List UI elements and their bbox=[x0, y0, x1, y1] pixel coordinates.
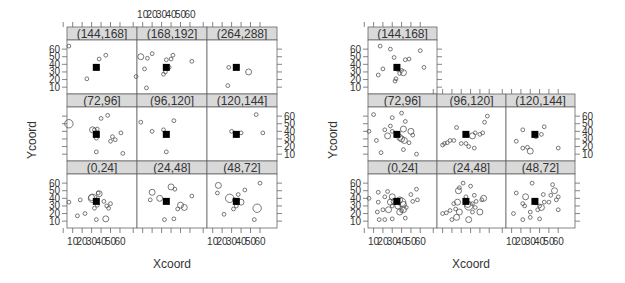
panel-frame bbox=[506, 174, 575, 228]
y-axis-title: Ycoord bbox=[326, 121, 340, 159]
panel-strip-label: (144,168] bbox=[77, 27, 128, 41]
reference-square-marker bbox=[93, 64, 100, 71]
reference-square-marker bbox=[531, 131, 538, 138]
y-tick-label: 60 bbox=[284, 111, 296, 122]
reference-square-marker bbox=[393, 198, 400, 205]
x-tick-label: 60 bbox=[415, 236, 427, 247]
x-axis-title: Xcoord bbox=[452, 257, 490, 271]
panel-frame bbox=[67, 107, 137, 161]
y-tick-label: 60 bbox=[350, 44, 362, 55]
panel: (24,48] bbox=[137, 161, 207, 229]
panel-frame bbox=[207, 174, 277, 228]
y-tick-label: 60 bbox=[49, 44, 61, 55]
reference-square-marker bbox=[233, 64, 240, 71]
y-tick-label: 60 bbox=[350, 178, 362, 189]
panel-strip-label: (120,144] bbox=[515, 94, 566, 108]
panel-strip-label: (0,24] bbox=[87, 161, 118, 175]
reference-square-marker bbox=[233, 131, 240, 138]
y-axis-title: Ycoord bbox=[25, 121, 39, 159]
reference-square-marker bbox=[163, 131, 170, 138]
panel-frame bbox=[207, 40, 277, 94]
panel-frame bbox=[437, 107, 506, 161]
panel-strip-label: (96,120] bbox=[449, 94, 493, 108]
panel: (144,168] bbox=[368, 27, 437, 95]
lattice-scatter-plots: (144,168](168,192](264,288](72,96](96,12… bbox=[0, 0, 625, 283]
panel: (168,192] bbox=[134, 27, 207, 95]
panel-strip-label: (144,168] bbox=[377, 27, 428, 41]
panel-strip-label: (24,48] bbox=[453, 161, 490, 175]
panel: (96,120] bbox=[137, 94, 207, 162]
reference-square-marker bbox=[393, 131, 400, 138]
reference-square-marker bbox=[93, 198, 100, 205]
panel-frame bbox=[207, 107, 277, 161]
reference-square-marker bbox=[233, 198, 240, 205]
panel-strip-label: (264,288] bbox=[217, 27, 268, 41]
reference-square-marker bbox=[462, 131, 469, 138]
reference-square-marker bbox=[93, 131, 100, 138]
panel: (120,144] bbox=[506, 94, 575, 162]
panel: (48,72] bbox=[506, 161, 575, 229]
panel-strip-label: (72,96] bbox=[83, 94, 120, 108]
reference-square-marker bbox=[393, 64, 400, 71]
panel: (96,120] bbox=[437, 94, 506, 162]
panel: (264,288] bbox=[207, 27, 277, 95]
chart-right: (144,168](72,96](96,120](120,144](0,24](… bbox=[326, 22, 594, 271]
panel: (0,24] bbox=[67, 161, 137, 229]
reference-square-marker bbox=[531, 198, 538, 205]
panel-strip-label: (120,144] bbox=[217, 94, 268, 108]
y-tick-label: 60 bbox=[582, 111, 594, 122]
panel: (48,72] bbox=[207, 161, 277, 229]
x-tick-label: 60 bbox=[553, 236, 565, 247]
y-tick-label: 60 bbox=[49, 178, 61, 189]
panel: (144,168] bbox=[67, 27, 137, 95]
chart-left: (144,168](168,192](264,288](72,96](96,12… bbox=[25, 9, 296, 271]
x-tick-label: 60 bbox=[114, 236, 126, 247]
reference-square-marker bbox=[163, 64, 170, 71]
panel: (24,48] bbox=[437, 161, 506, 229]
panel-frame bbox=[368, 40, 437, 94]
reference-square-marker bbox=[163, 198, 170, 205]
panel-frame bbox=[137, 107, 207, 161]
x-tick-label: 60 bbox=[254, 236, 266, 247]
panel: (120,144] bbox=[207, 94, 277, 162]
panel-strip-label: (24,48] bbox=[153, 161, 190, 175]
panel-strip-label: (48,72] bbox=[223, 161, 260, 175]
panel: (0,24] bbox=[367, 161, 437, 229]
panel-strip-label: (72,96] bbox=[384, 94, 421, 108]
reference-square-marker bbox=[462, 198, 469, 205]
panel-strip-label: (168,192] bbox=[147, 27, 198, 41]
lattice-plot-container: (144,168](168,192](264,288](72,96](96,12… bbox=[0, 0, 625, 283]
panel-strip-label: (48,72] bbox=[522, 161, 559, 175]
panel-frame bbox=[67, 40, 137, 94]
panel-strip-label: (96,120] bbox=[150, 94, 194, 108]
x-tick-label: 60 bbox=[184, 9, 196, 20]
x-axis-title: Xcoord bbox=[153, 257, 191, 271]
panel-strip-label: (0,24] bbox=[387, 161, 418, 175]
panel: (72,96] bbox=[367, 94, 437, 162]
panel-frame bbox=[506, 107, 575, 161]
panel: (72,96] bbox=[65, 94, 137, 162]
